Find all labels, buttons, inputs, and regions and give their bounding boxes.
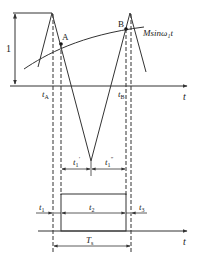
curve-label: Msinω₁t: [142, 28, 173, 38]
amplitude-indicator: 1: [6, 13, 52, 84]
t1-double-prime-label: t1″: [105, 156, 114, 168]
ts-dimension: Ts: [54, 235, 130, 246]
upper-time-axis: t: [10, 86, 187, 102]
t1-prime-label: t1′: [73, 156, 81, 168]
t2-label: t2: [89, 202, 95, 213]
amplitude-label: 1: [6, 43, 11, 54]
dashed-guides: [53, 14, 131, 252]
t1-prime-dimension: t1′ t1″: [62, 156, 125, 176]
lower-time-axis: t: [38, 231, 187, 247]
ts-label: Ts: [86, 235, 94, 246]
t-a-label: tA: [42, 89, 50, 100]
t1-label: t1: [39, 202, 45, 213]
timing-diagram: t 1 Msinω₁t A B tA tB t1′ t1″: [0, 0, 198, 260]
t-b-label: tB: [118, 89, 125, 100]
upper-axis-label: t: [183, 91, 186, 102]
t3-label: t3: [139, 202, 145, 213]
lower-axis-label: t: [183, 236, 186, 247]
point-b-label: B: [118, 19, 124, 29]
triangle-wave: [38, 13, 146, 161]
point-a-label: A: [62, 32, 69, 42]
